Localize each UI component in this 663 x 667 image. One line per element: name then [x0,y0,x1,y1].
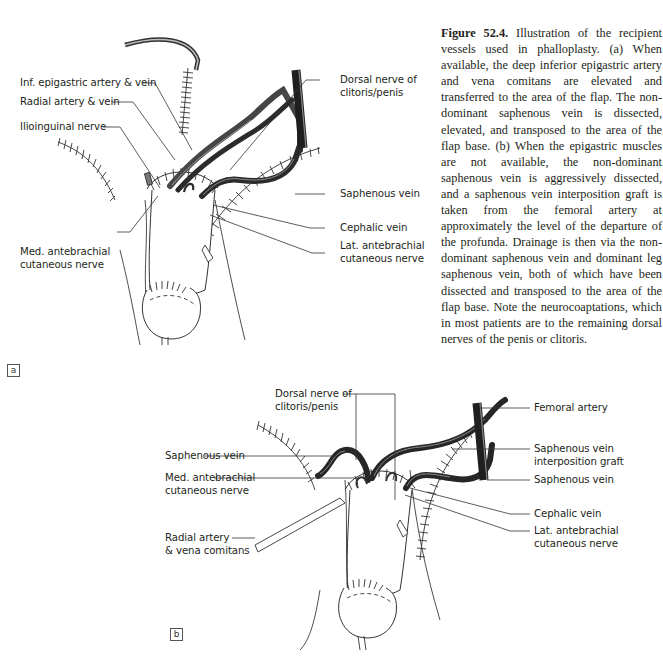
label-b-saphenous-vein-right: Saphenous vein [534,474,614,487]
label-b-cephalic-vein: Cephalic vein [534,508,601,521]
label-med-antebrachial-line1: Med. antebrachial [20,246,110,259]
label-dorsal-nerve-line1: Dorsal nerve of [340,74,417,87]
label-b-interposition-line2: interposition graft [534,456,624,469]
label-b-femoral-artery: Femoral artery [534,402,608,415]
label-b-interposition-line1: Saphenous vein [534,443,614,456]
label-lat-antebrachial-line1: Lat. antebrachial [340,240,425,253]
label-b-lat-antebrachial-line2: cutaneous nerve [534,538,618,551]
label-dorsal-nerve-line2: clitoris/penis [340,87,403,100]
label-b-dorsal-nerve-line1: Dorsal nerve of [275,388,352,401]
figure-number: Figure 52.4. [441,26,508,40]
label-b-med-antebrachial-line2: cutaneous nerve [165,485,249,498]
label-b-radial-line2: & vena comitans [165,545,250,558]
label-inf-epigastric-artery-vein: Inf. epigastric artery & vein [20,77,156,90]
panel-b-tag: b [170,628,183,641]
label-lat-antebrachial-line2: cutaneous nerve [340,253,424,266]
panel-a-tag: a [7,364,20,377]
label-ilioinguinal-nerve: Ilioinguinal nerve [20,121,106,134]
panel-a-vessels [170,70,306,196]
label-radial-artery-vein: Radial artery & vein [20,96,120,109]
figure-caption-text: Illustration of the recipient vessels us… [441,26,662,346]
label-saphenous-vein: Saphenous vein [340,188,420,201]
panel-b-drawing [255,421,475,650]
label-b-radial-line1: Radial artery [165,532,229,545]
label-med-antebrachial-line2: cutaneous nerve [20,259,104,272]
label-cephalic-vein: Cephalic vein [340,222,407,235]
label-b-lat-antebrachial-line1: Lat. antebrachial [534,525,619,538]
label-b-dorsal-nerve-line2: clitoris/penis [275,401,338,414]
label-b-med-antebrachial-line1: Med. antebrachial [165,472,255,485]
figure-caption: Figure 52.4. Illustration of the recipie… [441,25,662,347]
label-b-saphenous-vein-left: Saphenous vein [165,450,245,463]
panel-b-vessels [318,400,505,488]
